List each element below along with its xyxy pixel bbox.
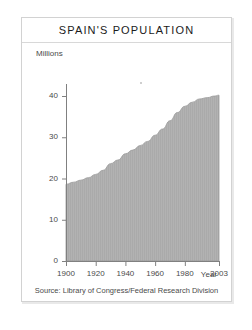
y-axis-tick-label: 40 xyxy=(38,91,58,100)
y-axis-tick-label: 30 xyxy=(38,132,58,141)
x-axis-tick-label: 1980 xyxy=(170,269,200,278)
y-axis-tick-label: 20 xyxy=(38,174,58,183)
chart-card: SPAIN'S POPULATION Millions Year Source:… xyxy=(21,17,232,302)
y-axis-tick-label: 10 xyxy=(38,215,58,224)
x-axis-tick-label: 1900 xyxy=(51,269,81,278)
x-axis-tick-label: 1960 xyxy=(140,269,170,278)
x-axis-tick-label: 2003 xyxy=(204,269,234,278)
chart-title-bar: SPAIN'S POPULATION xyxy=(22,18,231,43)
chart-figure: SPAIN'S POPULATION Millions Year Source:… xyxy=(0,0,252,330)
source-credit: Source: Library of Congress/Federal Rese… xyxy=(22,286,231,295)
x-axis-tick-label: 1940 xyxy=(110,269,140,278)
area-series-population xyxy=(66,95,219,261)
chart-plot-area: Millions Year Source: Library of Congres… xyxy=(22,43,231,302)
page-title: SPAIN'S POPULATION xyxy=(59,24,194,36)
y-axis-tick-label: 0 xyxy=(38,256,58,265)
x-axis-tick-label: 1920 xyxy=(81,269,111,278)
